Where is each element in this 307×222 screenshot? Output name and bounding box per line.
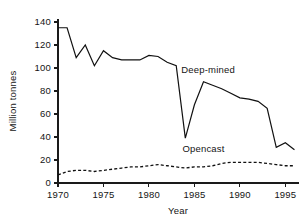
x-tick-label: 1975	[93, 189, 115, 200]
x-axis-ticks: 197019751980198519901995	[47, 183, 296, 200]
line-chart: 020406080100120140 197019751980198519901…	[0, 0, 307, 222]
x-tick-label: 1995	[274, 189, 296, 200]
y-tick-label: 60	[40, 108, 51, 119]
y-axis-ticks: 020406080100120140	[35, 16, 58, 188]
y-tick-label: 20	[40, 154, 51, 165]
chart-svg: 020406080100120140 197019751980198519901…	[0, 0, 307, 222]
y-axis-title: Million tonnes	[7, 71, 18, 132]
x-tick-label: 1985	[183, 189, 205, 200]
series-line-opencast	[58, 162, 294, 175]
y-tick-label: 140	[35, 16, 51, 27]
y-tick-label: 0	[46, 177, 51, 188]
y-tick-label: 120	[35, 39, 51, 50]
x-tick-label: 1990	[229, 189, 251, 200]
series-label-opencast: Opencast	[182, 143, 224, 154]
x-axis-title: Year	[168, 205, 188, 216]
series-label-deep-mined: Deep-mined	[181, 64, 235, 75]
series-line-deep-mined	[58, 28, 294, 150]
y-tick-label: 80	[40, 85, 51, 96]
y-tick-label: 100	[35, 62, 51, 73]
x-tick-label: 1980	[138, 189, 160, 200]
y-tick-label: 40	[40, 131, 51, 142]
x-tick-label: 1970	[47, 189, 69, 200]
